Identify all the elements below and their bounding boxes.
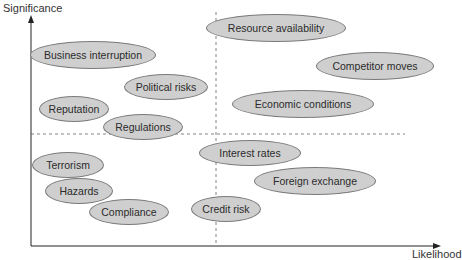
risk-ellipse: Credit risk [191, 196, 261, 222]
risk-ellipse: Interest rates [199, 140, 301, 166]
risk-ellipse: Business interruption [30, 41, 156, 69]
risk-ellipse: Political risks [124, 74, 208, 100]
risk-ellipse: Reputation [39, 96, 109, 122]
risk-ellipse: Resource availability [206, 14, 346, 42]
y-axis-arrow-icon [28, 15, 34, 23]
risk-ellipse: Compliance [89, 199, 169, 225]
risk-ellipse: Regulations [103, 114, 183, 140]
risk-ellipse: Competitor moves [316, 52, 434, 80]
risk-ellipse: Foreign exchange [254, 167, 376, 195]
risk-ellipse: Economic conditions [232, 90, 374, 118]
risk-ellipse: Terrorism [32, 152, 104, 178]
risk-ellipse: Hazards [45, 178, 113, 204]
x-axis-label: Likelihood [412, 248, 462, 260]
y-axis-label: Significance [3, 2, 62, 14]
